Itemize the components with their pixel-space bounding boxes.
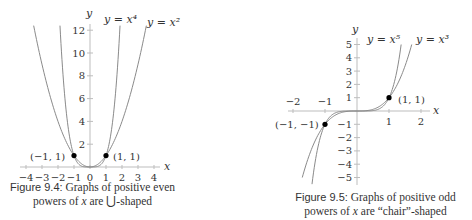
caption-text: powers of (33, 195, 79, 207)
y-tick-label: −2 (337, 132, 352, 143)
x-tick-label: −2 (286, 96, 301, 107)
caption-text: -shaped (116, 195, 152, 207)
y-tick-label: −4 (337, 159, 352, 170)
curve-label-x4: y = x⁴ (103, 13, 137, 26)
figure-9-5-caption: Figure 9.5: Graphs of positive odd power… (283, 190, 468, 218)
curve-label-x3: y = x³ (415, 33, 449, 46)
point-label-1-1: (1, 1) (398, 94, 425, 105)
y-tick-label: 1 (346, 92, 352, 103)
figure-9-4-caption: Figure 9.4: Graphs of positive even powe… (0, 180, 185, 208)
curve-label-x5: y = x⁵ (366, 33, 401, 46)
point-label-neg1-neg1: (−1, −1) (275, 119, 319, 130)
y-tick-label: 2 (79, 139, 85, 150)
point-label-1-1: (1, 1) (113, 151, 140, 162)
point-1-1 (103, 153, 108, 158)
cup-symbol-icon: ⋃ (106, 195, 116, 207)
point-neg1-neg1 (322, 122, 327, 127)
figure-9-5-plot: −2−112 54321−1−2−3−4−5 (1, 1) (−1, −1) x… (275, 23, 449, 185)
y-tick-label: 3 (346, 66, 352, 77)
caption-line1: Graphs of positive even (65, 181, 175, 193)
y-tick-label: 10 (72, 48, 85, 59)
y-tick-label: −3 (337, 145, 352, 156)
caption-variable: x (353, 205, 358, 217)
y-tick-label: 12 (72, 25, 85, 36)
caption-variable: x (81, 195, 86, 207)
y-tick-label: 2 (346, 79, 352, 90)
y-axis-label: y (351, 23, 359, 36)
y-tick-label: −5 (337, 172, 352, 183)
point-1-1 (386, 95, 391, 100)
caption-line1: Graphs of positive odd (351, 191, 456, 203)
y-tick-label: 6 (79, 93, 85, 104)
point-neg1-1 (71, 153, 76, 158)
x-tick-label: 2 (418, 116, 424, 127)
figure-label: Figure 9.4: (10, 181, 63, 193)
caption-text: are (361, 205, 375, 217)
caption-text: powers of (304, 205, 350, 217)
x-axis-label: x (433, 104, 440, 117)
y-tick-label: 4 (346, 52, 352, 63)
x-tick-label: 1 (386, 116, 392, 127)
x-axis-label: x (164, 160, 171, 173)
y-tick-label: −1 (337, 119, 352, 130)
caption-text: “chair”-shaped (378, 205, 447, 217)
y-tick-label: 5 (346, 39, 352, 50)
caption-text: are (89, 195, 103, 207)
y-tick-label: 4 (79, 116, 85, 127)
y-tick-label: 8 (79, 70, 85, 81)
figure-label: Figure 9.5: (295, 191, 348, 203)
curve-label-x2: y = x² (146, 16, 180, 29)
point-label-neg1-1: (−1, 1) (30, 151, 65, 162)
x-tick-label: −1 (318, 96, 333, 107)
figure-9-4-plot: −4−3−2−101234 24681012 (−1, 1) (1, 1) x … (19, 7, 180, 183)
y-axis-label: y (85, 7, 93, 20)
